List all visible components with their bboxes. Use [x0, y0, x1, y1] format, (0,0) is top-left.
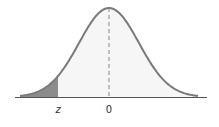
shaded-left-tail — [20, 76, 58, 97]
normal-curve-diagram: z 0 — [0, 0, 219, 127]
z-label: z — [54, 104, 61, 115]
zero-label: 0 — [106, 104, 112, 115]
